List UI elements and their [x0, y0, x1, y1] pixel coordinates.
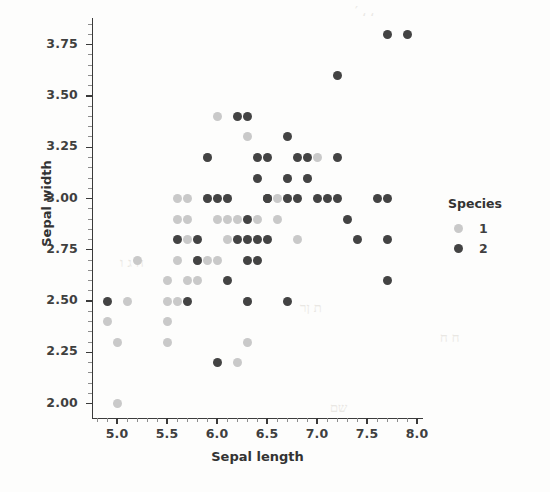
y-tick-minor	[88, 219, 92, 220]
y-tick-minor	[88, 280, 92, 281]
y-tick-mark	[86, 95, 92, 96]
data-point	[173, 194, 182, 203]
y-tick-label: 3.50	[26, 87, 78, 102]
x-tick-minor	[287, 418, 288, 422]
data-point	[333, 153, 342, 162]
y-tick-minor	[88, 24, 92, 25]
y-tick-minor	[88, 290, 92, 291]
data-point	[163, 276, 172, 285]
x-tick-label: 7.0	[294, 426, 340, 441]
y-tick-minor	[88, 383, 92, 384]
data-point	[243, 215, 252, 224]
x-tick-minor	[387, 418, 388, 422]
y-tick-minor	[88, 65, 92, 66]
y-tick-mark	[86, 44, 92, 45]
legend-marker-icon	[454, 244, 463, 253]
data-point	[383, 276, 392, 285]
y-tick-minor	[88, 260, 92, 261]
x-tick-label: 8.0	[394, 426, 440, 441]
x-tick-minor	[357, 418, 358, 422]
data-point	[223, 194, 232, 203]
y-tick-minor	[88, 75, 92, 76]
x-tick-minor	[147, 418, 148, 422]
y-tick-label: 2.25	[26, 343, 78, 358]
x-axis-title: Sepal length	[92, 449, 423, 464]
y-tick-mark	[86, 198, 92, 199]
x-tick-minor	[107, 418, 108, 422]
x-tick-mark	[266, 418, 267, 424]
y-tick-mark	[86, 249, 92, 250]
x-tick-mark	[316, 418, 317, 424]
y-tick-minor	[88, 229, 92, 230]
legend-marker-icon	[454, 224, 463, 233]
y-tick-minor	[88, 239, 92, 240]
data-point	[173, 215, 182, 224]
data-point	[103, 297, 112, 306]
data-point	[233, 112, 242, 121]
data-point	[183, 194, 192, 203]
data-point	[203, 153, 212, 162]
data-point	[203, 256, 212, 265]
y-tick-minor	[88, 106, 92, 107]
data-point	[273, 215, 282, 224]
data-point	[313, 153, 322, 162]
data-point	[303, 174, 312, 183]
data-point	[243, 132, 252, 141]
data-point	[383, 30, 392, 39]
x-tick-minor	[157, 418, 158, 422]
y-tick-label: 3.75	[26, 36, 78, 51]
legend: Species 12	[448, 196, 544, 258]
data-point	[243, 112, 252, 121]
data-point	[333, 194, 342, 203]
data-point	[233, 235, 242, 244]
x-tick-mark	[116, 418, 117, 424]
paper-artifact: ′ ، ،	[355, 4, 374, 19]
y-tick-minor	[88, 85, 92, 86]
x-tick-mark	[416, 418, 417, 424]
x-tick-minor	[377, 418, 378, 422]
y-tick-minor	[88, 136, 92, 137]
data-point	[243, 256, 252, 265]
data-point	[163, 338, 172, 347]
data-point	[293, 153, 302, 162]
legend-item[interactable]: 2	[448, 238, 544, 258]
data-point	[213, 256, 222, 265]
y-tick-minor	[88, 372, 92, 373]
data-point	[263, 153, 272, 162]
data-point	[163, 317, 172, 326]
data-point	[373, 194, 382, 203]
data-point	[253, 256, 262, 265]
y-tick-label: 2.50	[26, 292, 78, 307]
y-tick-minor	[88, 178, 92, 179]
x-tick-minor	[337, 418, 338, 422]
y-tick-minor	[88, 157, 92, 158]
data-point	[383, 235, 392, 244]
data-point	[233, 215, 242, 224]
x-tick-minor	[397, 418, 398, 422]
y-tick-minor	[88, 342, 92, 343]
y-tick-mark	[86, 147, 92, 148]
x-tick-label: 5.0	[94, 426, 140, 441]
x-tick-minor	[127, 418, 128, 422]
y-tick-minor	[88, 188, 92, 189]
y-tick-label: 2.00	[26, 395, 78, 410]
legend-item[interactable]: 1	[448, 218, 544, 238]
data-point	[213, 112, 222, 121]
data-point	[193, 235, 202, 244]
data-point	[383, 194, 392, 203]
data-point	[253, 174, 262, 183]
data-point	[263, 194, 272, 203]
x-tick-mark	[366, 418, 367, 424]
y-tick-mark	[86, 300, 92, 301]
y-tick-minor	[88, 126, 92, 127]
data-point	[173, 297, 182, 306]
x-tick-minor	[187, 418, 188, 422]
x-tick-minor	[407, 418, 408, 422]
x-tick-minor	[297, 418, 298, 422]
x-tick-minor	[237, 418, 238, 422]
y-tick-minor	[88, 34, 92, 35]
y-tick-minor	[88, 362, 92, 363]
data-point	[273, 194, 282, 203]
data-point	[183, 235, 192, 244]
data-point	[173, 256, 182, 265]
